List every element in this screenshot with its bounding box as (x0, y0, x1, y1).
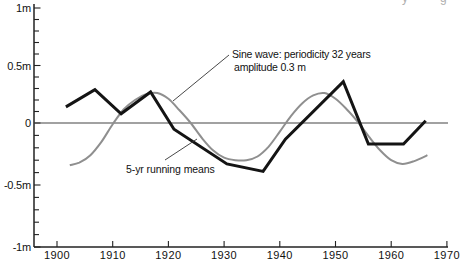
y-tick-label: 0 (0, 117, 31, 129)
y-tick-label: 0.5m (0, 60, 31, 72)
running-means-leader (165, 139, 197, 160)
cropped-glyph: y (402, 0, 408, 5)
running-means-label: 5-yr running means (126, 163, 215, 175)
x-tick-label: 1900 (40, 249, 74, 261)
running-means-curve (66, 82, 426, 172)
x-tick-label: 1920 (151, 249, 185, 261)
x-tick-label: 1940 (263, 249, 297, 261)
sea-level-anomaly-chart: yg Sine wave: periodicity 32 years ampli… (0, 0, 465, 274)
cropped-glyph: g (440, 0, 447, 5)
chart-canvas (0, 0, 465, 274)
sine-wave-curve (70, 93, 428, 165)
y-tick-label: 1m (0, 2, 31, 14)
x-tick-label: 1930 (207, 249, 241, 261)
cropped-text-fragment: yg (0, 0, 465, 5)
x-tick-label: 1950 (319, 249, 353, 261)
y-tick-label: -0.5m (0, 179, 31, 191)
y-tick-label: -1m (0, 241, 31, 253)
sine-wave-annotation: Sine wave: periodicity 32 years amplitud… (232, 48, 371, 73)
x-tick-label: 1960 (374, 249, 408, 261)
x-tick-label: 1970 (430, 249, 464, 261)
sine-annotation-line1: Sine wave: periodicity 32 years (232, 48, 371, 61)
sine-annotation-line2: amplitude 0.3 m (232, 61, 371, 74)
x-tick-label: 1910 (96, 249, 130, 261)
sine-wave-leader (173, 55, 229, 101)
